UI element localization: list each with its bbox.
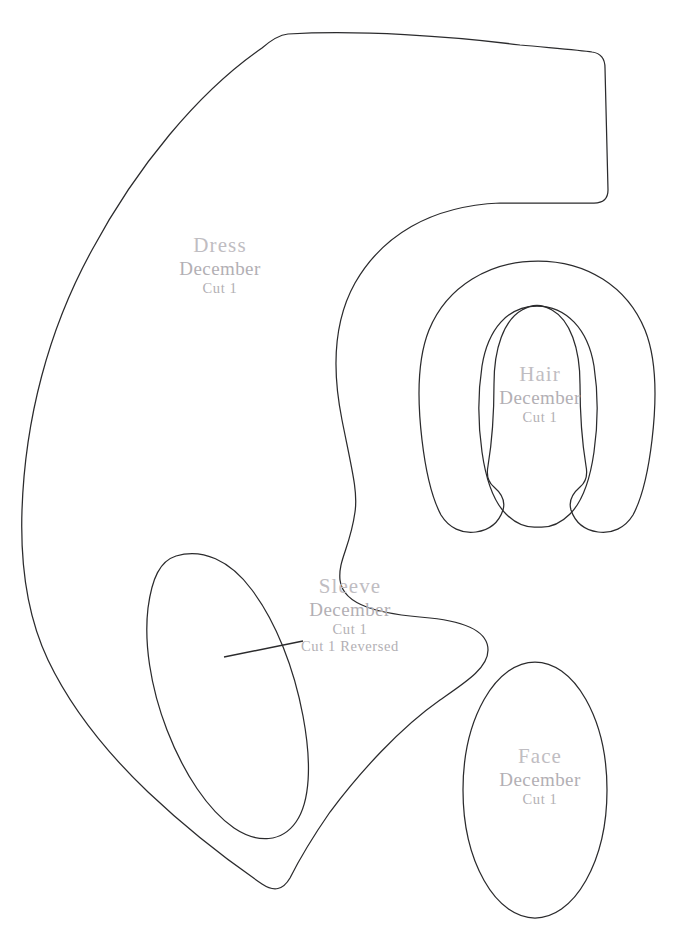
- face-label-cut: Cut 1: [455, 791, 625, 808]
- dress-label-month: December: [120, 258, 320, 280]
- hair-label-name: Hair: [455, 362, 625, 387]
- sleeve-label-name: Sleeve: [250, 574, 450, 599]
- sleeve-label-cut: Cut 1: [250, 621, 450, 638]
- dress-label-name: Dress: [120, 233, 320, 258]
- face-label-name: Face: [455, 744, 625, 769]
- pattern-sheet: Dress December Cut 1 Hair December Cut 1…: [0, 0, 682, 945]
- hair-label-cut: Cut 1: [455, 409, 625, 426]
- hair-label-month: December: [455, 387, 625, 409]
- piece-label-face: Face December Cut 1: [455, 744, 625, 808]
- piece-label-sleeve: Sleeve December Cut 1 Cut 1 Reversed: [250, 574, 450, 655]
- sleeve-label-cut-rev: Cut 1 Reversed: [250, 638, 450, 655]
- piece-label-hair: Hair December Cut 1: [455, 362, 625, 426]
- dress-label-cut: Cut 1: [120, 280, 320, 297]
- sleeve-label-month: December: [250, 599, 450, 621]
- piece-label-dress: Dress December Cut 1: [120, 233, 320, 297]
- face-label-month: December: [455, 769, 625, 791]
